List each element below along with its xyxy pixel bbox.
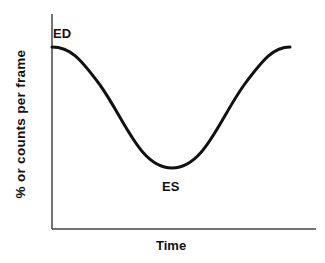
annotation-es: ES	[162, 179, 179, 194]
y-axis-label: % or counts per frame	[13, 50, 28, 199]
x-axis-label: Time	[156, 238, 186, 253]
data-curve	[52, 47, 290, 168]
chart-canvas	[0, 0, 325, 263]
annotation-ed: ED	[53, 26, 71, 41]
